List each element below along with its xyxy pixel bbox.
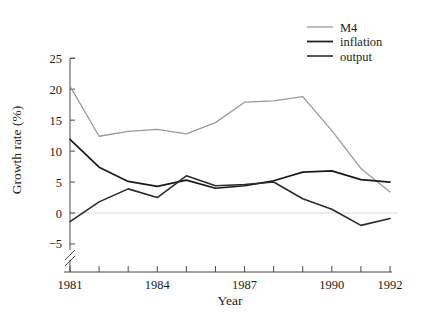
x-tick-label: 1990 <box>319 278 344 292</box>
x-tick-label: 1987 <box>232 278 257 292</box>
legend-label-m4: M4 <box>340 21 358 35</box>
legend-label-output: output <box>340 50 372 64</box>
series-line-inflation <box>70 139 390 188</box>
x-tick-label: 1984 <box>145 278 171 292</box>
y-tick-label: 15 <box>50 114 63 128</box>
chart-axes <box>64 58 392 272</box>
y-tick-label: 5 <box>56 176 62 190</box>
x-axis-tick-labels: 19811984198719901992 <box>58 278 403 292</box>
legend-label-inflation: inflation <box>340 35 383 49</box>
y-tick-label: 20 <box>50 83 63 97</box>
growth-rate-line-chart: −50510152025 19811984198719901992 M4infl… <box>0 0 426 322</box>
data-series-lines <box>70 86 390 225</box>
x-axis-title: Year <box>218 293 243 308</box>
y-tick-label: 0 <box>56 207 62 221</box>
y-axis-title: Growth rate (%) <box>9 106 24 194</box>
x-tick-label: 1992 <box>378 278 403 292</box>
y-axis-tick-labels: −50510152025 <box>49 52 62 252</box>
chart-legend: M4inflationoutput <box>307 21 383 64</box>
x-tick-label: 1981 <box>58 278 83 292</box>
chart-svg: −50510152025 19811984198719901992 M4infl… <box>0 0 426 322</box>
y-tick-label: −5 <box>49 237 62 251</box>
y-tick-label: 10 <box>50 145 63 159</box>
axis-break-mark-upper <box>65 250 75 260</box>
y-tick-label: 25 <box>50 52 63 66</box>
series-line-output <box>70 176 390 226</box>
